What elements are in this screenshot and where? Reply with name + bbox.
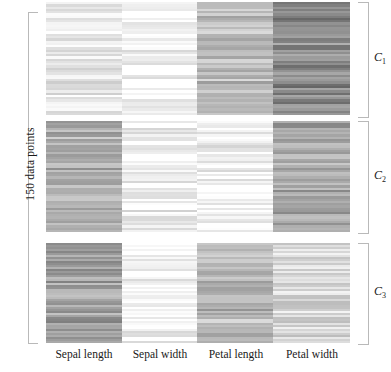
heatmap-column [122, 243, 197, 343]
cluster-label-c3: C3 [374, 284, 386, 300]
cluster-label-c2: C2 [374, 168, 386, 184]
heatmap-cell-row [273, 230, 350, 232]
heatmap-cell-row [122, 341, 197, 343]
heatmap-block-c3 [46, 243, 350, 343]
heatmap-cell-row [197, 113, 273, 115]
column-label-sepal-width: Sepal width [122, 348, 198, 366]
heatmap-cell-row [46, 230, 122, 232]
y-axis-label: 150 data points [24, 94, 36, 234]
heatmap-column [197, 121, 273, 232]
heatmap-column [273, 2, 350, 116]
heatmap-column [46, 2, 122, 116]
heatmap-column [46, 121, 122, 232]
cluster-bracket-c1 [358, 2, 369, 118]
cluster-bracket-c2 [358, 121, 369, 234]
column-label-petal-length: Petal length [198, 348, 274, 366]
heatmap-cell-row [46, 113, 122, 115]
heatmap-column [122, 121, 197, 232]
heatmap-figure: 150 data points C1 C2 C3 Sepal length Se… [0, 0, 391, 372]
heatmap-blocks [46, 0, 350, 345]
heatmap-cell-row [197, 230, 273, 232]
cluster-label-c1: C1 [374, 50, 386, 66]
heatmap-block-c2 [46, 121, 350, 232]
cluster-bracket-c3 [358, 243, 369, 345]
heatmap-cell-row [46, 341, 122, 343]
heatmap-column [273, 121, 350, 232]
heatmap-cell-row [122, 230, 197, 232]
heatmap-column [197, 2, 273, 116]
column-label-sepal-length: Sepal length [46, 348, 122, 366]
heatmap-column [197, 243, 273, 343]
heatmap-block-c1 [46, 2, 350, 116]
heatmap-column [122, 2, 197, 116]
heatmap-cell-row [273, 341, 350, 343]
column-labels: Sepal length Sepal width Petal length Pe… [46, 348, 350, 366]
heatmap-cell-row [197, 341, 273, 343]
heatmap-cell-row [273, 113, 350, 115]
heatmap-column [46, 243, 122, 343]
heatmap-column [273, 243, 350, 343]
heatmap-cell-row [122, 113, 197, 115]
column-label-petal-width: Petal width [274, 348, 350, 366]
